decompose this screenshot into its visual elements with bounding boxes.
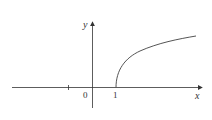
y-axis-label: y: [82, 19, 88, 30]
x-axis-label: x: [194, 90, 200, 101]
sqrt-graph-figure: y x 0 1: [0, 0, 212, 120]
tick-label-one: 1: [113, 90, 118, 100]
origin-label: 0: [83, 90, 88, 100]
graph-canvas: y x 0 1: [0, 0, 212, 120]
sqrt-curve: [116, 36, 196, 88]
